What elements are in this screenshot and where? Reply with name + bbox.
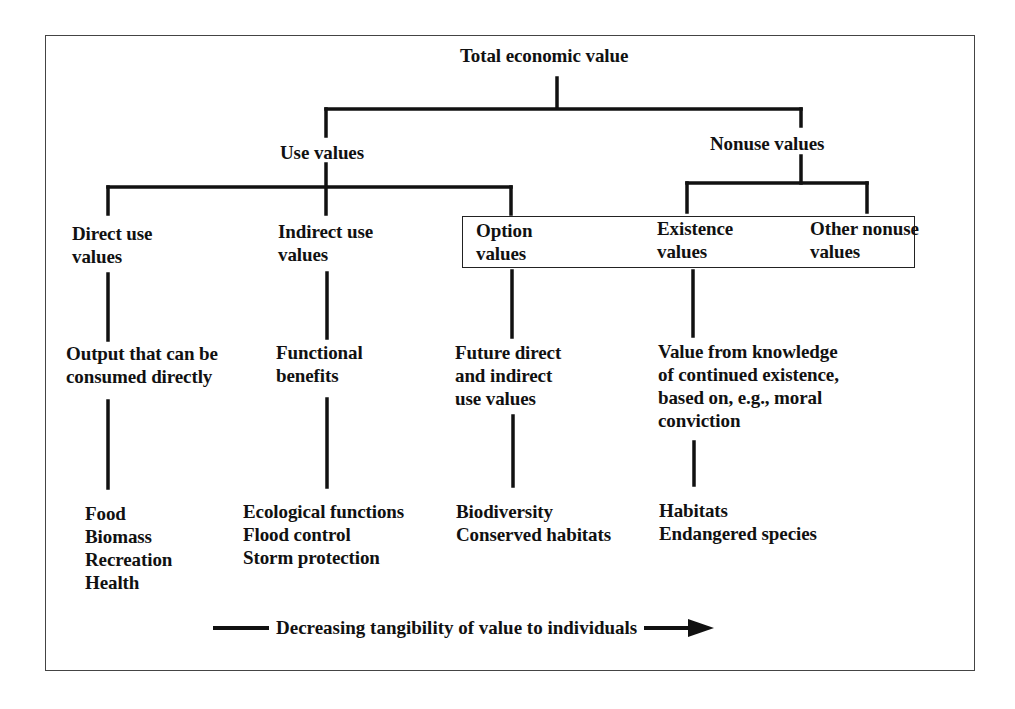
example-item: Habitats [659, 499, 817, 522]
root-label: Total economic value [460, 44, 628, 67]
category-line: values [810, 240, 919, 263]
category-line: Option [476, 219, 532, 242]
category-line: Other nonuse [810, 217, 919, 240]
description-line: Output that can be [66, 342, 218, 365]
description-line: of continued existence, [658, 363, 839, 386]
use-values-label: Use values [280, 141, 364, 164]
description-indirect: Functional benefits [276, 341, 363, 387]
example-item: Recreation [85, 548, 172, 571]
description-line: based on, e.g., moral [658, 386, 839, 409]
description-line: benefits [276, 364, 363, 387]
example-item: Flood control [243, 523, 404, 546]
example-item: Health [85, 571, 172, 594]
description-option: Future direct and indirect use values [455, 341, 561, 410]
examples-existence: Habitats Endangered species [659, 499, 817, 545]
description-line: Future direct [455, 341, 561, 364]
node-option-values: Option values [476, 219, 532, 265]
node-other-nonuse-values: Other nonuse values [810, 217, 919, 263]
category-line: values [72, 245, 152, 268]
description-line: and indirect [455, 364, 561, 387]
description-line: Functional [276, 341, 363, 364]
category-line: Existence [657, 217, 733, 240]
node-nonuse-values: Nonuse values [710, 132, 824, 155]
category-line: Indirect use [278, 220, 373, 243]
description-line: conviction [658, 409, 839, 432]
example-item: Biomass [85, 525, 172, 548]
example-item: Storm protection [243, 546, 404, 569]
examples-indirect: Ecological functions Flood control Storm… [243, 500, 404, 569]
example-item: Food [85, 502, 172, 525]
description-line: use values [455, 387, 561, 410]
node-use-values: Use values [280, 141, 364, 164]
description-line: Value from knowledge [658, 340, 839, 363]
root-node-total-economic-value: Total economic value [460, 44, 628, 67]
category-line: values [657, 240, 733, 263]
node-existence-values: Existence values [657, 217, 733, 263]
right-arrow-icon [644, 619, 714, 637]
example-item: Endangered species [659, 522, 817, 545]
category-line: Direct use [72, 222, 152, 245]
examples-direct: Food Biomass Recreation Health [85, 502, 172, 594]
node-direct-use-values: Direct use values [72, 222, 152, 268]
description-direct: Output that can be consumed directly [66, 342, 218, 388]
nonuse-values-label: Nonuse values [710, 132, 824, 155]
description-existence: Value from knowledge of continued existe… [658, 340, 839, 432]
examples-option: Biodiversity Conserved habitats [456, 500, 611, 546]
category-line: values [278, 243, 373, 266]
tangibility-axis: Decreasing tangibility of value to indiv… [213, 614, 714, 642]
category-line: values [476, 242, 532, 265]
axis-dash [213, 626, 269, 630]
example-item: Conserved habitats [456, 523, 611, 546]
example-item: Ecological functions [243, 500, 404, 523]
description-line: consumed directly [66, 365, 218, 388]
node-indirect-use-values: Indirect use values [278, 220, 373, 266]
axis-label: Decreasing tangibility of value to indiv… [276, 617, 637, 639]
example-item: Biodiversity [456, 500, 611, 523]
